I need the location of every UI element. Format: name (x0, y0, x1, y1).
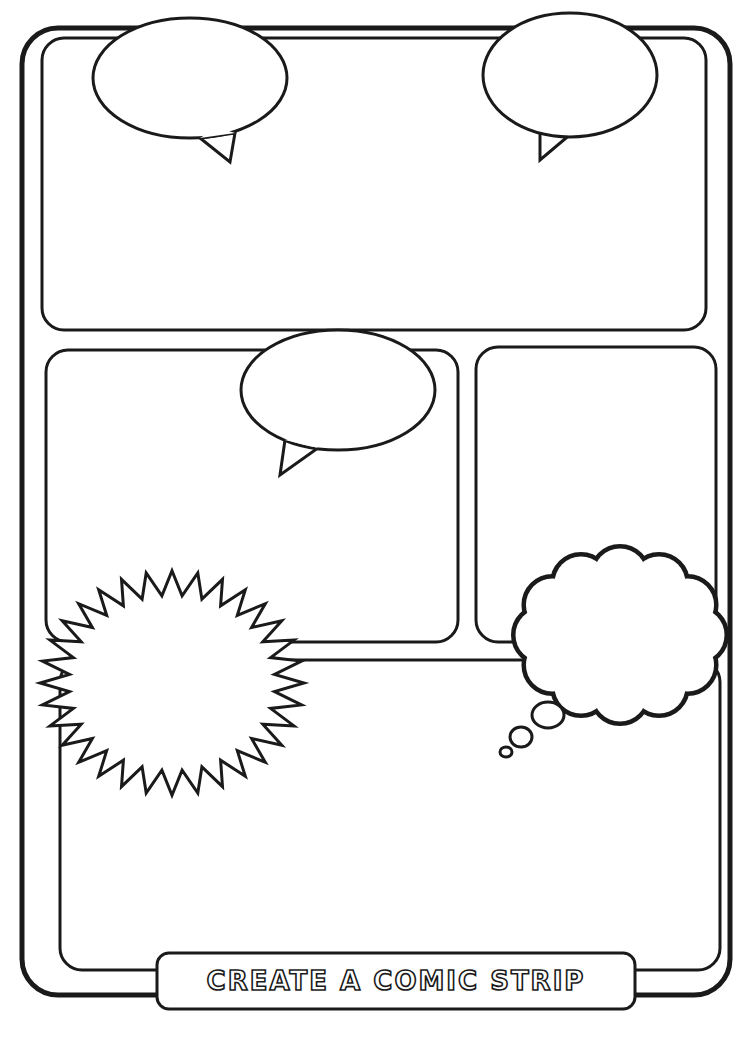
speech-balloon (93, 18, 287, 138)
thought-dot (510, 727, 532, 747)
speech-balloon (241, 330, 435, 450)
speech-balloon (483, 13, 657, 137)
thought-dot (500, 747, 512, 757)
burst-bottom-left (40, 571, 304, 795)
panels (42, 38, 720, 970)
page-title: CREATE A COMIC STRIP (157, 953, 635, 1009)
thought-dot (532, 702, 564, 728)
burst-shape (40, 571, 304, 795)
thought-cloud (542, 575, 698, 695)
comic-page (0, 0, 747, 1040)
